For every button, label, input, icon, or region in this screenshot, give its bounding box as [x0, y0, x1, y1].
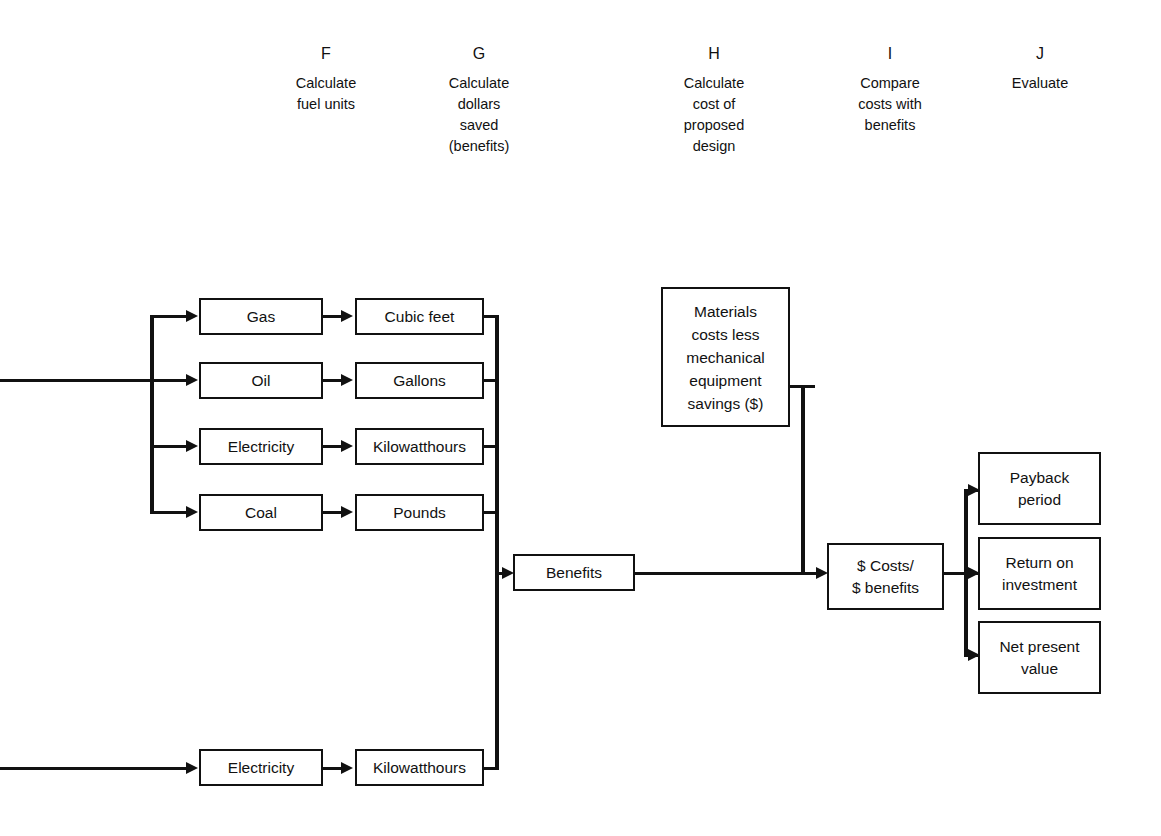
- connector-fuel-bus: [150, 315, 154, 514]
- column-letter-i: I: [830, 44, 950, 64]
- node-fuel-coal[interactable]: Coal: [199, 494, 323, 531]
- connector-bus-to-oil: [150, 379, 188, 382]
- arrowhead-pounds: [341, 506, 353, 518]
- column-description-f: Calculate fuel units: [266, 73, 386, 115]
- arrowhead-coal: [186, 506, 198, 518]
- column-letter-g: G: [419, 44, 539, 64]
- node-net-present-value[interactable]: Net present value: [978, 621, 1101, 694]
- column-header-i: I Compare costs with benefits: [830, 44, 950, 136]
- arrowhead-bottom-kilowatthours: [341, 762, 353, 774]
- arrowhead-electricity: [186, 440, 198, 452]
- connector-bottom-electricity-to-kwh: [322, 767, 343, 770]
- node-bottom-kilowatthours[interactable]: Kilowatthours: [355, 749, 484, 786]
- node-bottom-electricity[interactable]: Electricity: [199, 749, 323, 786]
- column-header-h: H Calculate cost of proposed design: [651, 44, 777, 157]
- arrowhead-bottom-electricity: [186, 762, 198, 774]
- flowchart-canvas: F Calculate fuel units G Calculate dolla…: [0, 0, 1161, 836]
- column-header-g: G Calculate dollars saved (benefits): [419, 44, 539, 157]
- node-unit-kilowatthours[interactable]: Kilowatthours: [355, 428, 484, 465]
- connector-benefits-collector-bus: [495, 315, 499, 768]
- connector-benefits-to-costs: [634, 572, 820, 575]
- node-fuel-gas[interactable]: Gas: [199, 298, 323, 335]
- connector-coal-to-pounds: [322, 511, 343, 514]
- connector-electricity-to-kwh: [322, 445, 343, 448]
- connector-bottom-input: [0, 767, 188, 770]
- column-description-i: Compare costs with benefits: [830, 73, 950, 136]
- connector-input-trunk: [0, 379, 152, 382]
- node-unit-cubic-feet[interactable]: Cubic feet: [355, 298, 484, 335]
- node-fuel-oil[interactable]: Oil: [199, 362, 323, 399]
- connector-materials-drop: [801, 385, 805, 574]
- connector-oil-to-gallons: [322, 379, 343, 382]
- node-fuel-electricity[interactable]: Electricity: [199, 428, 323, 465]
- node-unit-gallons[interactable]: Gallons: [355, 362, 484, 399]
- node-payback-period[interactable]: Payback period: [978, 452, 1101, 525]
- arrowhead-gas: [186, 310, 198, 322]
- column-description-j: Evaluate: [980, 73, 1100, 94]
- node-costs-benefits[interactable]: $ Costs/ $ benefits: [827, 543, 944, 610]
- column-letter-h: H: [651, 44, 777, 64]
- connector-bus-to-gas: [150, 315, 188, 318]
- column-header-j: J Evaluate: [980, 44, 1100, 94]
- arrowhead-gallons: [341, 374, 353, 386]
- node-unit-pounds[interactable]: Pounds: [355, 494, 484, 531]
- node-benefits[interactable]: Benefits: [513, 554, 635, 591]
- column-letter-f: F: [266, 44, 386, 64]
- connector-bottom-kwh-to-collector: [483, 767, 499, 770]
- column-letter-j: J: [980, 44, 1100, 64]
- column-description-g: Calculate dollars saved (benefits): [419, 73, 539, 157]
- arrowhead-cubic-feet: [341, 310, 353, 322]
- arrowhead-oil: [186, 374, 198, 386]
- node-return-on-investment[interactable]: Return on investment: [978, 537, 1101, 610]
- connector-bus-to-electricity: [150, 445, 188, 448]
- node-materials-costs[interactable]: Materials costs less mechanical equipmen…: [661, 287, 790, 427]
- arrowhead-kilowatthours: [341, 440, 353, 452]
- connector-gas-to-cubicfeet: [322, 315, 343, 318]
- connector-bus-to-coal: [150, 511, 188, 514]
- column-header-f: F Calculate fuel units: [266, 44, 386, 115]
- column-description-h: Calculate cost of proposed design: [651, 73, 777, 157]
